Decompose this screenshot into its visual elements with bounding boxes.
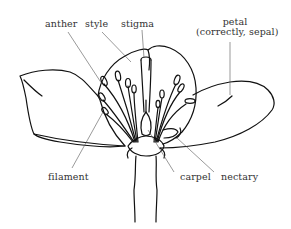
flower-diagram: anther style stigma petal (correctly, se…: [0, 0, 291, 229]
label-anther: anther: [45, 19, 77, 29]
stamens-right: [154, 74, 195, 142]
stamens-left: [98, 71, 138, 142]
label-stigma: stigma: [121, 19, 154, 29]
label-carpel: carpel: [180, 172, 211, 182]
style: [141, 60, 144, 112]
label-petal-line2: (correctly, sepal): [196, 27, 274, 37]
label-nectary: nectary: [221, 172, 258, 182]
stem: [134, 156, 136, 222]
label-petal: petal (correctly, sepal): [196, 17, 274, 37]
label-filament: filament: [48, 172, 89, 182]
nectary-shape: [163, 129, 178, 138]
label-style: style: [85, 19, 108, 29]
